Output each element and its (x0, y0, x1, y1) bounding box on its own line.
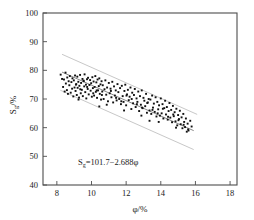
scatter-point (95, 81, 97, 83)
scatter-point (84, 91, 86, 93)
scatter-point (93, 81, 95, 83)
scatter-point (162, 118, 164, 120)
scatter-point (153, 103, 155, 105)
y-tick-label: 50 (30, 151, 39, 161)
scatter-point (103, 98, 105, 100)
scatter-point (86, 86, 88, 88)
scatter-point (157, 112, 159, 114)
scatter-point (63, 79, 65, 81)
chart-canvas: 81012141618 405060708090100 φ/% Sg/% Sg=… (0, 0, 254, 220)
scatter-point (167, 116, 169, 118)
scatter-point (85, 84, 87, 86)
y-tick-label: 80 (30, 65, 39, 75)
scatter-point (164, 100, 166, 102)
scatter-point (167, 119, 169, 121)
scatter-point (80, 82, 82, 84)
scatter-point (91, 96, 93, 98)
scatter-point (70, 81, 72, 83)
scatter-point (123, 101, 125, 103)
scatter-point (181, 116, 183, 118)
scatter-point (146, 102, 148, 104)
scatter-point (181, 127, 183, 129)
scatter-point (166, 106, 168, 108)
equation-phi: φ (134, 157, 139, 167)
scatter-point (122, 95, 124, 97)
y-axis-title-unit: /% (8, 95, 18, 106)
scatter-point (149, 110, 151, 112)
scatter-point (160, 97, 162, 99)
scatter-point (69, 75, 71, 77)
scatter-point (113, 85, 115, 87)
scatter-point (136, 97, 138, 99)
scatter-point (73, 79, 75, 81)
svg-text:Sg=101.7−2.688φ: Sg=101.7−2.688φ (78, 157, 139, 168)
scatter-point (120, 100, 122, 102)
scatter-point (162, 108, 164, 110)
scatter-point (71, 88, 73, 90)
scatter-point (170, 109, 172, 111)
scatter-point (189, 120, 191, 122)
scatter-point (120, 103, 122, 105)
scatter-point (134, 88, 136, 90)
scatter-point (111, 81, 113, 83)
scatter-point (68, 84, 70, 86)
scatter-point (77, 87, 79, 89)
scatter-point (109, 92, 111, 94)
scatter-point (158, 121, 160, 123)
scatter-point (74, 75, 76, 77)
scatter-point (104, 79, 106, 81)
scatter-point (66, 77, 68, 79)
x-tick-label: 8 (55, 188, 59, 198)
scatter-point (84, 73, 86, 75)
scatter-point (102, 84, 104, 86)
scatter-point (66, 89, 68, 91)
scatter-point (97, 79, 99, 81)
scatter-point (178, 119, 180, 121)
scatter-point (107, 100, 109, 102)
scatter-point (143, 100, 145, 102)
scatter-point (143, 97, 145, 99)
scatter-point (88, 93, 90, 95)
scatter-point (141, 107, 143, 109)
scatter-point (138, 110, 140, 112)
x-tick-label: 14 (157, 188, 166, 198)
scatter-point (76, 94, 78, 96)
scatter-point (61, 78, 63, 80)
scatter-point (139, 95, 141, 97)
y-tick-label: 100 (25, 8, 38, 18)
scatter-point (156, 116, 158, 118)
equation-body: =101.7−2.688 (86, 157, 134, 167)
scatter-point (177, 114, 179, 116)
scatter-point (187, 123, 189, 125)
scatter-point (117, 83, 119, 85)
scatter-point (152, 109, 154, 111)
scatter-point (60, 74, 62, 76)
scatter-point (127, 89, 129, 91)
scatter-point (78, 97, 80, 99)
scatter-point (146, 112, 148, 114)
scatter-point (169, 117, 171, 119)
scatter-point (74, 87, 76, 89)
y-tick-label: 60 (30, 123, 39, 133)
scatter-point (131, 92, 133, 94)
scatter-point (112, 101, 114, 103)
chart-background (0, 0, 254, 220)
scatter-point (144, 105, 146, 107)
scatter-point (151, 95, 153, 97)
scatter-point (77, 81, 79, 83)
scatter-point (176, 124, 178, 126)
scatter-point (180, 123, 182, 125)
scatter-point (76, 76, 78, 78)
svg-text:Sg/%: Sg/% (8, 95, 19, 114)
scatter-point (85, 97, 87, 99)
scatter-point (155, 96, 157, 98)
scatter-point (78, 85, 80, 87)
scatter-point (165, 114, 167, 116)
scatter-point (98, 85, 100, 87)
scatter-point (89, 79, 91, 81)
scatter-point (100, 99, 102, 101)
scatter-point (133, 94, 135, 96)
scatter-point (136, 101, 138, 103)
scatter-point (90, 82, 92, 84)
regression-equation-annotation: Sg=101.7−2.688φ (78, 157, 139, 168)
